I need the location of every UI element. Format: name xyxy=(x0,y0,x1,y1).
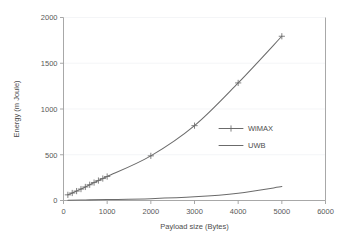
x-tick-label: 0 xyxy=(61,207,65,216)
x-tick-label: 5000 xyxy=(273,207,290,216)
legend-label: UWB xyxy=(248,141,266,150)
x-tick-label: 3000 xyxy=(186,207,203,216)
y-tick-label: 1000 xyxy=(41,105,58,114)
x-tick-label: 6000 xyxy=(317,207,334,216)
y-axis-title: Energy (m Joule) xyxy=(12,80,21,138)
chart-canvas: 0500100015002000010002000300040005000600… xyxy=(0,0,343,241)
legend-item-uwb[interactable]: UWB xyxy=(219,141,266,150)
y-tick-label: 0 xyxy=(53,196,57,205)
series-uwb xyxy=(68,187,282,201)
series-wimax xyxy=(65,33,285,198)
series-line xyxy=(68,36,282,195)
chart-figure: 0500100015002000010002000300040005000600… xyxy=(0,0,343,241)
series-line xyxy=(68,187,282,201)
x-tick-label: 4000 xyxy=(230,207,247,216)
x-tick-label: 2000 xyxy=(142,207,159,216)
x-axis-title: Payload size (Bytes) xyxy=(160,222,229,231)
y-tick-label: 2000 xyxy=(41,13,58,22)
x-tick-label: 1000 xyxy=(99,207,116,216)
y-tick-label: 500 xyxy=(45,151,58,160)
y-tick-label: 1500 xyxy=(41,59,58,68)
data-point-marker xyxy=(148,153,154,159)
legend-label: WiMAX xyxy=(248,124,273,133)
legend-item-wimax[interactable]: WiMAX xyxy=(219,124,273,133)
legend-swatch-marker xyxy=(228,125,234,131)
